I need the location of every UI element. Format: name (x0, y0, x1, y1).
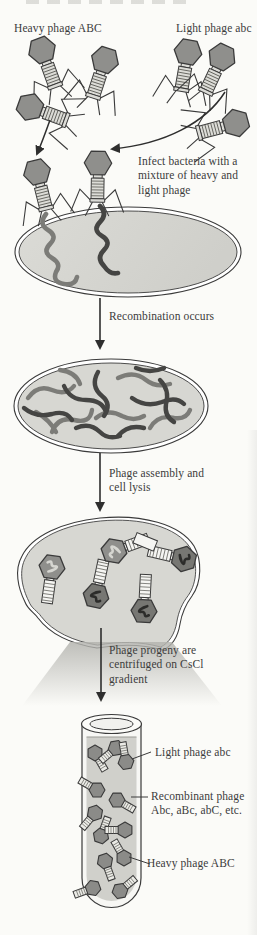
step-centrifuge-caption: Phage progeny are centrifuged on CsCl gr… (109, 643, 213, 686)
arrow-heavy-to-bacterium (37, 120, 50, 154)
tube-rim-inner (90, 718, 133, 730)
step-recombination-caption: Recombination occurs (109, 309, 229, 323)
step-infect-caption: Infect bacteria with a mixture of heavy … (138, 154, 252, 197)
light-phage-group (152, 35, 255, 163)
centrifuge-tube (71, 715, 151, 908)
tube-band-label-recombinant: Recombinant phage Abc, aBc, abC, etc. (151, 789, 255, 818)
step-assembly-caption: Phage assembly and cell lysis (109, 466, 221, 495)
tube-band-label-heavy: Heavy phage ABC (147, 856, 255, 870)
heavy-phage-group (9, 29, 134, 150)
heavy-phage-title: Heavy phage ABC (14, 21, 124, 35)
bacterium-recombining (14, 359, 208, 453)
tube-band-label-light: Light phage abc (155, 745, 255, 759)
lysing-cell (18, 517, 200, 650)
light-phage-title: Light phage abc (176, 21, 257, 35)
figure-phage-recombination: Heavy phage ABC Light phage abc Infect b… (0, 0, 257, 935)
bacterium-infected (15, 206, 241, 297)
